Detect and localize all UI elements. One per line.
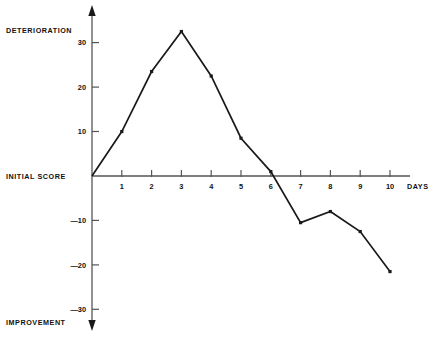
x-tick-label-6: 6 [269, 182, 273, 191]
chart-container: 30 20 10 —10 —20 —30 1 2 3 4 5 6 7 8 9 1… [0, 0, 433, 337]
series-markers-score [120, 30, 391, 273]
y-tick-label-30: 30 [78, 38, 86, 47]
deterioration-label: DETERIORATION [6, 26, 72, 35]
y-tick-label-10: 10 [78, 127, 86, 136]
y-tick-label-neg10: —10 [70, 216, 86, 225]
x-tick-label-9: 9 [358, 182, 362, 191]
data-point-day-1 [120, 130, 123, 133]
x-tick-label-8: 8 [328, 182, 332, 191]
data-point-day-9 [359, 230, 362, 233]
data-point-day-4 [210, 74, 213, 77]
improvement-label: IMPROVEMENT [6, 318, 66, 327]
data-point-day-10 [388, 270, 391, 273]
x-tick-label-2: 2 [150, 182, 154, 191]
x-tick-label-3: 3 [179, 182, 183, 191]
x-tick-label-10: 10 [386, 182, 394, 191]
y-axis-bottom-arrow-icon [88, 320, 95, 331]
line-chart: 30 20 10 —10 —20 —30 1 2 3 4 5 6 7 8 9 1… [0, 0, 433, 337]
data-point-day-6 [269, 170, 272, 173]
initial-score-label: INITIAL SCORE [6, 172, 66, 181]
x-tick-label-7: 7 [299, 182, 303, 191]
data-point-day-5 [239, 137, 242, 140]
data-point-day-2 [150, 70, 153, 73]
data-series-group [92, 30, 392, 273]
y-tick-label-neg20: —20 [70, 261, 86, 270]
y-tick-label-neg30: —30 [70, 305, 86, 314]
y-tick-label-20: 20 [78, 83, 86, 92]
data-point-day-8 [329, 210, 332, 213]
data-point-day-7 [299, 221, 302, 224]
x-tick-label-4: 4 [209, 182, 214, 191]
x-tick-label-1: 1 [120, 182, 124, 191]
data-point-day-3 [180, 30, 183, 33]
y-axis [88, 5, 95, 331]
x-axis-title: DAYS [407, 182, 429, 191]
series-line-score [92, 32, 390, 272]
y-axis-top-arrow-icon [88, 5, 95, 16]
x-tick-label-5: 5 [239, 182, 243, 191]
